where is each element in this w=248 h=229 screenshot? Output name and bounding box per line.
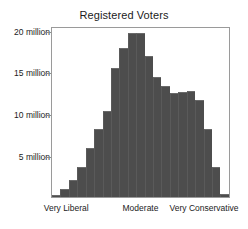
bar <box>103 111 111 197</box>
bar <box>145 56 153 197</box>
x-axis: Very LiberalModerateVery Conservative <box>51 203 230 219</box>
bar <box>212 167 220 197</box>
bar <box>119 48 127 197</box>
bar <box>77 167 85 197</box>
y-axis-tick <box>44 32 51 33</box>
bar <box>69 180 77 197</box>
bar <box>204 129 212 197</box>
bar <box>153 77 161 197</box>
chart-figure: Registered Voters 5 million10 million15 … <box>0 0 248 229</box>
y-axis-tick <box>44 157 51 158</box>
y-axis-tick <box>44 115 51 116</box>
plot-area <box>51 27 230 198</box>
bar <box>60 189 68 197</box>
x-axis-tick-label: Very Liberal <box>44 203 89 213</box>
bar <box>52 195 60 197</box>
bar <box>178 92 186 197</box>
bar <box>111 68 119 197</box>
bar <box>128 33 136 197</box>
bar <box>94 129 102 197</box>
bar <box>170 93 178 197</box>
y-axis-tick <box>44 73 51 74</box>
bar <box>161 86 169 197</box>
bar <box>195 100 203 197</box>
x-axis-tick-label: Very Conservative <box>170 203 239 213</box>
bar <box>136 33 144 197</box>
bar <box>86 148 94 197</box>
bar-series <box>52 28 229 197</box>
x-axis-tick-label: Moderate <box>123 203 159 213</box>
bar <box>187 91 195 197</box>
bar <box>220 194 228 197</box>
